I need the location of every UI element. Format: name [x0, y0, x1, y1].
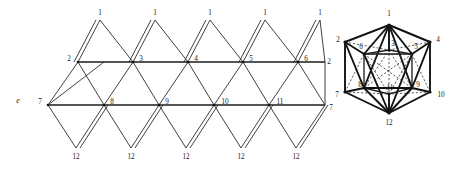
- graph-label-5: 5: [414, 43, 418, 51]
- graph-star-chords: [364, 25, 412, 113]
- graph-node-8: [363, 87, 366, 90]
- labels-group: e 1 1 1 1 1 2 3 4 5 6 2 7 8 9 10 11 7 12…: [16, 9, 445, 161]
- net-node-6: [297, 61, 300, 64]
- graph-node-4: [428, 40, 431, 43]
- net-label-upper-6: 6: [304, 55, 308, 63]
- graph-node-10: [428, 90, 431, 93]
- net-label-lower-8: 8: [110, 98, 114, 106]
- net-node-8: [103, 104, 106, 107]
- net-label-lower-7: 7: [38, 98, 42, 106]
- net-label-lower-9: 9: [165, 98, 169, 106]
- graph-label-3: 3: [391, 40, 395, 48]
- net-label-lower-11: 11: [277, 98, 284, 106]
- graph-node-6: [363, 53, 366, 56]
- net-top-seam-1: [74, 20, 96, 62]
- graph-label-11: 11: [387, 84, 394, 92]
- graph-label-8: 8: [358, 81, 362, 89]
- net-label-lower-10: 10: [221, 98, 229, 106]
- net-label-bottom-1: 12: [72, 153, 80, 161]
- graph-label-1: 1: [387, 10, 391, 18]
- net-zig-2: [78, 62, 133, 105]
- graph-node-7: [343, 90, 346, 93]
- net-label-bottom-4: 12: [237, 153, 245, 161]
- graph-label-4: 4: [436, 36, 440, 44]
- graph-spoke-12-9: [389, 88, 412, 113]
- net-label-top-3: 1: [208, 9, 212, 17]
- net-bottom-seam-2: [135, 105, 163, 148]
- graph-node-1: [387, 23, 390, 26]
- net-zig-1: [48, 62, 104, 105]
- graph-spoke-12-8: [364, 88, 389, 113]
- net-node-3: [132, 61, 135, 64]
- graph-group: [343, 23, 431, 114]
- net-zig-4: [188, 62, 243, 105]
- net-bottom-triangle-1: [48, 105, 104, 148]
- net-bottom-triangle-4: [214, 105, 269, 148]
- net-label-upper-3: 3: [139, 55, 143, 63]
- net-label-bottom-2: 12: [127, 153, 135, 161]
- net-zig-3: [133, 62, 188, 105]
- net-label-bottom-5: 12: [292, 153, 300, 161]
- graph-label-10: 10: [437, 91, 445, 99]
- net-label-upper-2: 2: [67, 55, 71, 63]
- net-node-2: [77, 61, 80, 64]
- net-node-9: [158, 104, 161, 107]
- net-label-bottom-3: 12: [182, 153, 190, 161]
- graph-label-9: 9: [416, 81, 420, 89]
- figure-svg: e 1 1 1 1 1 2 3 4 5 6 2 7 8 9 10 11 7 12…: [0, 0, 453, 169]
- graph-chord-12-6: [364, 54, 389, 113]
- graph-node-3: [388, 49, 391, 52]
- net-bottom-seam-5: [300, 105, 328, 148]
- net-group: [47, 20, 328, 148]
- net-label-upper-2-right: 2: [327, 58, 331, 66]
- graph-label-2: 2: [336, 36, 340, 44]
- net-bottom-seam-3: [190, 105, 218, 148]
- graph-label-6: 6: [359, 43, 363, 51]
- net-node-7: [47, 104, 50, 107]
- graph-label-12: 12: [385, 119, 393, 127]
- net-zig-5: [243, 62, 298, 105]
- net-node-11: [268, 104, 271, 107]
- net-top-triangle-5: [298, 20, 325, 62]
- net-top-triangles: [78, 20, 325, 62]
- graph-node-11: [388, 93, 391, 96]
- graph-label-7: 7: [335, 91, 339, 99]
- graph-dash-10-5: [412, 54, 430, 92]
- net-label-upper-5: 5: [249, 55, 253, 63]
- graph-outer-hexagon: [345, 25, 430, 113]
- graph-node-5: [411, 53, 414, 56]
- net-label-lower-7-right: 7: [329, 104, 333, 112]
- net-bottom-triangle-3: [159, 105, 214, 148]
- net-label-top-2: 1: [153, 9, 157, 17]
- graph-node-12: [387, 111, 390, 114]
- net-label-top-1: 1: [98, 9, 102, 17]
- net-zig-6: [298, 62, 325, 105]
- net-bottom-triangles: [48, 105, 325, 148]
- net-label-upper-4: 4: [194, 55, 198, 63]
- net-label-top-4: 1: [263, 9, 267, 17]
- figure-container: e 1 1 1 1 1 2 3 4 5 6 2 7 8 9 10 11 7 12…: [0, 0, 453, 169]
- graph-node-9: [411, 87, 414, 90]
- figure-letter-label: e: [16, 96, 20, 105]
- net-node-10: [213, 104, 216, 107]
- net-top-triangle-1: [78, 20, 133, 62]
- graph-node-2: [343, 40, 346, 43]
- net-node-4: [187, 61, 190, 64]
- graph-spokes: [345, 25, 430, 113]
- net-bottom-seam-4: [245, 105, 273, 148]
- net-bottom-triangle-2: [104, 105, 159, 148]
- net-node-5: [242, 61, 245, 64]
- net-bottom-triangle-5: [269, 105, 325, 148]
- graph-spoke-10-9: [412, 88, 430, 92]
- net-label-top-5: 1: [318, 9, 322, 17]
- net-bottom-seam-1: [80, 105, 108, 148]
